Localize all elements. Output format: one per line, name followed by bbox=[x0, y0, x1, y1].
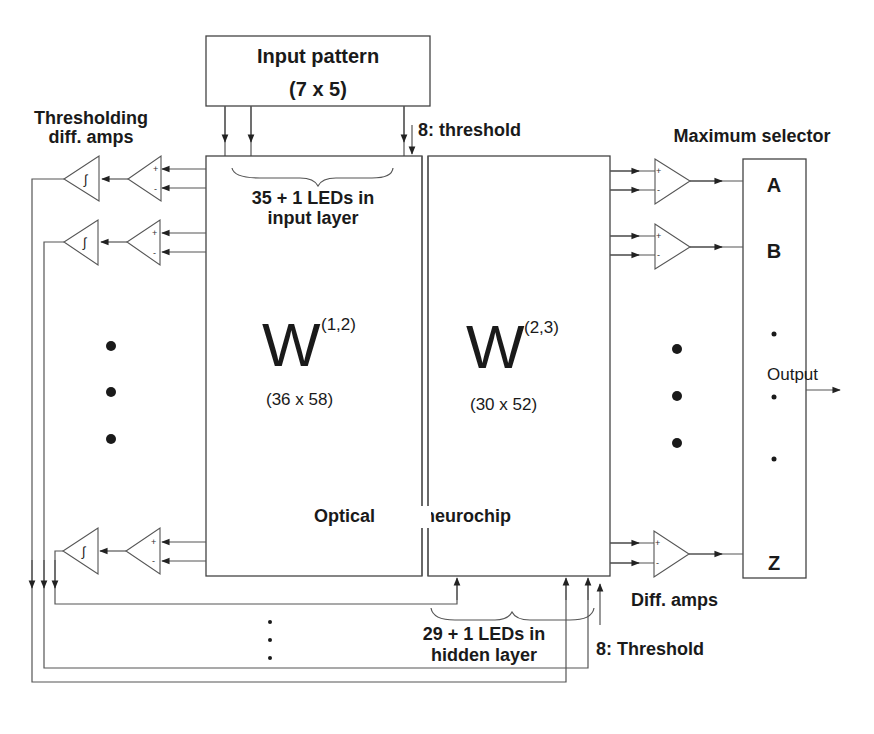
bottom-ellipsis-dots bbox=[268, 620, 272, 660]
thresholding-label-line2: diff. amps bbox=[48, 127, 133, 147]
optical-neurochip-diagram: Input pattern (7 x 5) 8: threshold 35 + … bbox=[0, 0, 874, 734]
selector-output-b: B bbox=[767, 240, 781, 262]
hidden-leds-line1: 29 + 1 LEDs in bbox=[423, 624, 546, 644]
diff-amps-label: Diff. amps bbox=[631, 590, 718, 610]
hidden-layer-brace bbox=[431, 608, 594, 620]
svg-text:+: + bbox=[152, 228, 157, 238]
thresholding-label-line1: Thresholding bbox=[34, 108, 148, 128]
svg-text:+: + bbox=[153, 164, 158, 174]
svg-text:-: - bbox=[657, 185, 660, 195]
input-leds-line2: input layer bbox=[267, 208, 358, 228]
w12-superscript: (1,2) bbox=[321, 315, 356, 334]
svg-text:-: - bbox=[656, 558, 659, 568]
selector-output-a: A bbox=[767, 174, 781, 196]
input-leds-line1: 35 + 1 LEDs in bbox=[252, 188, 375, 208]
w23-superscript: (2,3) bbox=[524, 318, 559, 337]
input-pattern-box: Input pattern (7 x 5) bbox=[206, 36, 430, 106]
w12-symbol: W bbox=[262, 310, 321, 379]
chip-label-optical: Optical bbox=[314, 506, 375, 526]
output-label: Output bbox=[767, 365, 818, 384]
w23-symbol: W bbox=[466, 312, 525, 381]
right-amp-row-b: + - bbox=[610, 224, 743, 269]
svg-text:-: - bbox=[657, 250, 660, 260]
left-ellipsis-dots bbox=[106, 341, 116, 444]
diff-amp-triangle bbox=[128, 156, 161, 201]
maximum-selector-label: Maximum selector bbox=[673, 126, 830, 146]
selector-output-z: Z bbox=[768, 552, 780, 574]
right-amp-row-z: + - bbox=[610, 531, 743, 577]
hidden-leds-line2: hidden layer bbox=[431, 645, 537, 665]
svg-text:+: + bbox=[655, 538, 660, 548]
svg-text:+: + bbox=[656, 166, 661, 176]
right-ellipsis-dots bbox=[672, 344, 682, 448]
svg-text:-: - bbox=[153, 248, 156, 258]
threshold-amp-triangle bbox=[64, 156, 99, 201]
right-amp-row-a: + - bbox=[610, 159, 743, 204]
svg-text:-: - bbox=[152, 556, 155, 566]
top-threshold-label: 8: threshold bbox=[418, 120, 521, 140]
w23-size: (30 x 52) bbox=[470, 395, 537, 414]
chip-label-neurochip: neurochip bbox=[424, 506, 511, 526]
svg-text:+: + bbox=[151, 537, 156, 547]
input-pattern-title: Input pattern bbox=[257, 45, 379, 67]
input-pattern-size: (7 x 5) bbox=[289, 78, 347, 100]
svg-text:-: - bbox=[154, 184, 157, 194]
input-arrows bbox=[225, 106, 412, 156]
bottom-threshold-label: 8: Threshold bbox=[596, 639, 704, 659]
w12-size: (36 x 58) bbox=[266, 390, 333, 409]
svg-text:+: + bbox=[656, 231, 661, 241]
